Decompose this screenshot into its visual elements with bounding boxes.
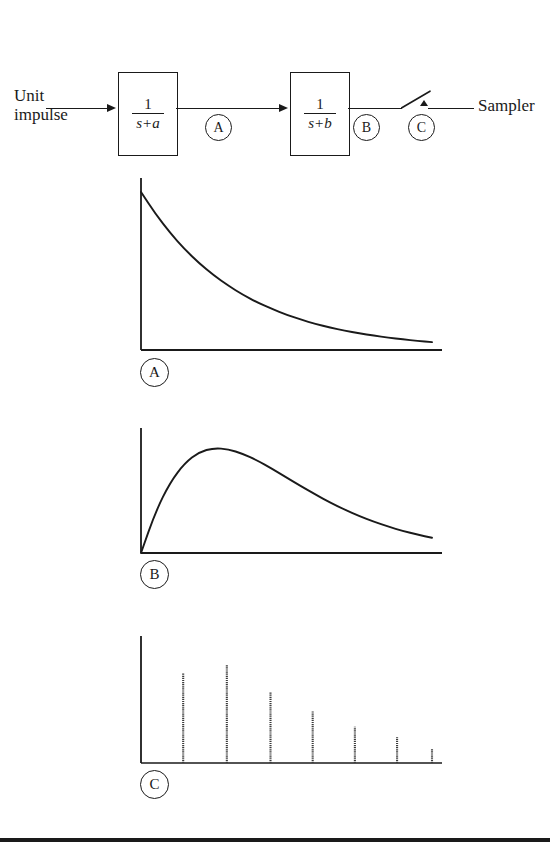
- fraction-b: 1 s+b: [304, 97, 335, 131]
- plot-b-tag-label: B: [149, 566, 159, 583]
- fraction-b-denominator: s+b: [304, 113, 335, 131]
- node-marker-b: B: [353, 114, 380, 141]
- plot-c-tag-label: C: [149, 776, 159, 793]
- plot-a-tag: A: [140, 358, 169, 387]
- unit-impulse-label: Unit impulse: [14, 86, 110, 124]
- wire-block-b-to-sampler: [348, 108, 402, 109]
- plot-c: C: [0, 628, 550, 833]
- wire-input-to-block-a: [46, 108, 108, 109]
- transfer-function-block-b: 1 s+b: [290, 72, 350, 156]
- node-marker-a-label: A: [213, 120, 223, 136]
- plot-a-curve: [141, 192, 432, 342]
- sampler-label: Sampler: [478, 96, 535, 115]
- plot-a-tag-label: A: [149, 364, 160, 381]
- node-marker-b-label: B: [362, 120, 371, 136]
- figure-canvas: Unit impulse 1 s+a A 1 s+b B: [0, 0, 550, 858]
- bottom-rule: [0, 838, 550, 842]
- fraction-a-denominator: s+a: [132, 113, 163, 131]
- arrowhead-block-b-icon: [279, 104, 288, 112]
- fraction-a: 1 s+a: [132, 97, 163, 131]
- plot-c-tag: C: [140, 770, 169, 799]
- wire-sampler-output: [428, 108, 474, 109]
- block-diagram: Unit impulse 1 s+a A 1 s+b B: [0, 30, 550, 140]
- plot-b-tag: B: [140, 560, 169, 589]
- fraction-b-numerator: 1: [304, 97, 335, 113]
- fraction-a-numerator: 1: [132, 97, 163, 113]
- wire-block-a-to-block-b: [176, 108, 280, 109]
- plot-b-curve: [141, 448, 432, 553]
- plot-c-impulse-stems: [183, 665, 432, 763]
- unit-impulse-line1: Unit: [14, 86, 44, 105]
- node-marker-c-label: C: [417, 120, 426, 136]
- plot-b: B: [0, 420, 550, 625]
- plot-a-svg: [0, 170, 550, 395]
- plot-b-svg: [0, 420, 550, 625]
- node-marker-a: A: [205, 114, 232, 141]
- sampler-contact-icon: [420, 100, 428, 106]
- plot-a: A: [0, 170, 550, 395]
- transfer-function-block-a: 1 s+a: [118, 72, 178, 156]
- plot-c-svg: [0, 628, 550, 833]
- node-marker-c: C: [408, 114, 435, 141]
- arrowhead-input-icon: [107, 104, 116, 112]
